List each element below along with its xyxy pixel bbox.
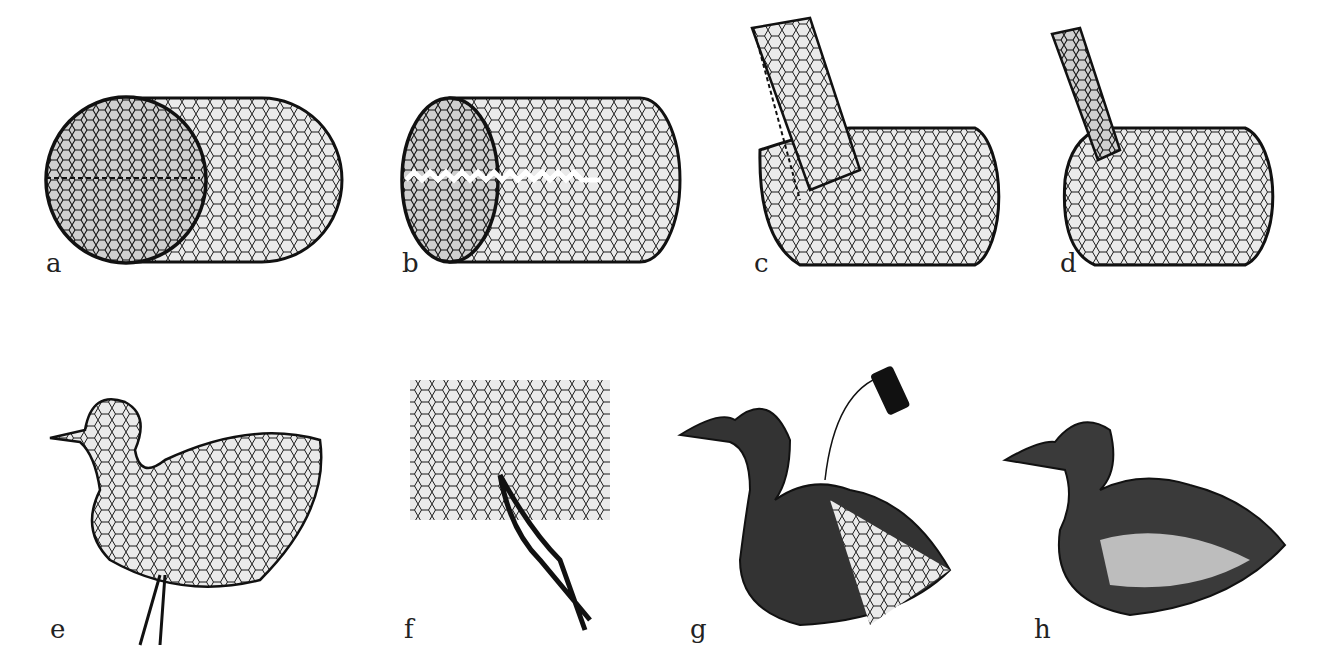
mesh-cylinder-cut-drawing	[390, 0, 710, 290]
illustration-plate: a b c d e	[0, 0, 1323, 667]
panel-label: f	[404, 616, 414, 642]
panel-f: f	[390, 330, 630, 667]
panel-label: d	[1060, 250, 1077, 276]
mesh-body-neck-rolling-drawing	[740, 0, 1030, 290]
panel-label: b	[402, 250, 419, 276]
panel-label: e	[50, 616, 65, 642]
panel-label: g	[690, 616, 707, 642]
mesh-cylinder-drawing	[0, 0, 360, 290]
panel-b: b	[390, 0, 710, 290]
mesh-pliers-closeup-drawing	[390, 330, 630, 667]
panel-a: a	[0, 0, 360, 290]
duck-partially-covered-drawing	[660, 330, 980, 667]
mesh-body-with-neck-drawing	[1040, 0, 1323, 290]
panel-label: a	[46, 250, 62, 276]
panel-g: g	[660, 330, 980, 667]
panel-e: e	[0, 330, 360, 667]
panel-d: d	[1040, 0, 1323, 290]
panel-c: c	[740, 0, 1030, 290]
panel-label: c	[754, 250, 769, 276]
panel-label: h	[1034, 616, 1051, 642]
panel-h: h	[990, 330, 1323, 667]
